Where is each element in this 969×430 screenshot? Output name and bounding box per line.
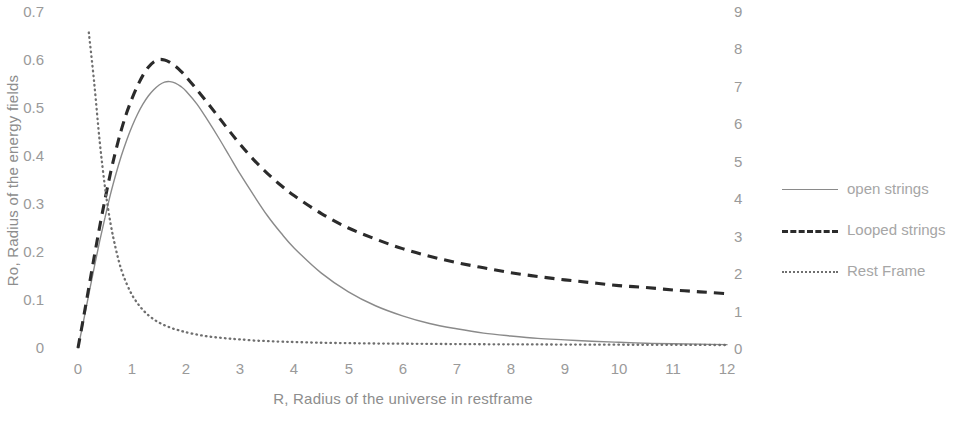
legend-label: Looped strings: [847, 221, 945, 238]
chart-container: Ro, Radius of the energy fields R, Radiu…: [0, 0, 969, 430]
legend-label: Rest Frame: [847, 262, 925, 279]
legend-line-solid-icon: [782, 183, 838, 195]
legend-label: open strings: [847, 180, 929, 197]
legend-line-dotted-icon: [782, 265, 838, 277]
legend-item-rest-frame[interactable]: Rest Frame: [782, 250, 967, 291]
chart-legend: open strings Looped strings Rest Frame: [782, 168, 967, 291]
legend-item-looped-strings[interactable]: Looped strings: [782, 209, 967, 250]
series-line-rest-frame: [89, 33, 727, 345]
series-line-looped-strings: [78, 59, 727, 348]
series-line-open-strings: [78, 82, 727, 348]
legend-line-dashed-icon: [782, 224, 838, 236]
legend-item-open-strings[interactable]: open strings: [782, 168, 967, 209]
